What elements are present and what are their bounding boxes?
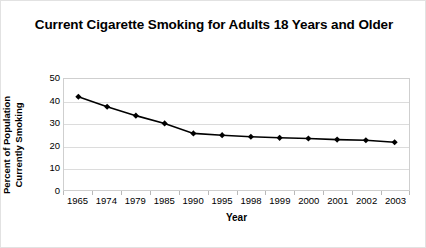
data-series — [64, 79, 409, 190]
chart-figure: Current Cigarette Smoking for Adults 18 … — [0, 0, 426, 248]
data-point-marker — [75, 94, 81, 100]
y-axis-tick-label: 40 — [36, 96, 60, 106]
data-point-marker — [363, 137, 369, 143]
y-axis-tick-label: 50 — [36, 73, 60, 83]
series-line — [78, 97, 394, 143]
data-point-marker — [305, 135, 311, 141]
y-axis-tick-label: 20 — [36, 141, 60, 151]
y-axis-tick-label: 0 — [36, 186, 60, 196]
chart-title: Current Cigarette Smoking for Adults 18 … — [31, 15, 397, 34]
data-point-marker — [133, 113, 139, 119]
y-axis-tick-label: 10 — [36, 163, 60, 173]
plot-area — [63, 78, 410, 191]
y-axis-title-line-2: Currently Smoking — [13, 78, 25, 212]
series-markers — [75, 94, 397, 146]
data-point-marker — [277, 135, 283, 141]
data-point-marker — [248, 134, 254, 140]
data-point-marker — [190, 130, 196, 136]
x-axis-tick-labels: 1965197419791985199019951998199920002001… — [63, 195, 410, 209]
data-point-marker — [334, 137, 340, 143]
y-axis-title-line-1: Percent of Population — [1, 78, 13, 212]
data-point-marker — [162, 120, 168, 126]
data-point-marker — [219, 132, 225, 138]
data-point-marker — [104, 104, 110, 110]
x-axis-title: Year — [63, 212, 410, 223]
x-axis-tick-label: 2003 — [378, 195, 414, 206]
data-point-marker — [392, 139, 398, 145]
y-axis-tick-labels: 50403020100 — [34, 78, 60, 191]
y-axis-tick-label: 30 — [36, 118, 60, 128]
